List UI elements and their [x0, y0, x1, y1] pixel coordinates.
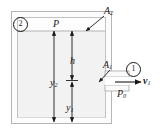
surface-area-label: A2: [104, 6, 113, 16]
station-2-marker: 2: [13, 17, 28, 32]
surface-area-subscript: 2: [110, 9, 113, 16]
height-y1-subscript: 1: [70, 106, 73, 113]
orifice-opening: [105, 77, 129, 85]
height-y2-label: y2: [50, 78, 58, 88]
orifice-area-subscript: 1: [109, 63, 112, 70]
ambient-pressure-label: P0: [117, 89, 126, 99]
tank-discharge-diagram: 2 1 P A2 A1 h y2 y1 P0 v1: [0, 0, 163, 136]
height-h-symbol: h: [70, 55, 75, 66]
station-2-label: 2: [19, 19, 23, 28]
exit-velocity-label: v1: [143, 76, 151, 86]
surface-pressure-label: P: [53, 19, 59, 29]
exit-velocity-subscript: 1: [147, 79, 150, 86]
height-h-label: h: [70, 56, 75, 66]
liquid-body: [18, 31, 105, 118]
orifice-area-label: A1: [103, 60, 112, 70]
station-1-label: 1: [132, 64, 136, 73]
height-y1-label: y1: [66, 103, 74, 113]
station-1-marker: 1: [126, 62, 141, 77]
surface-pressure-symbol: P: [53, 18, 59, 29]
ambient-pressure-subscript: 0: [123, 92, 126, 99]
height-y2-subscript: 2: [54, 81, 57, 88]
